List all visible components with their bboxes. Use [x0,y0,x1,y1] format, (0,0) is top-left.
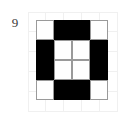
pattern-cell-filled [54,20,72,40]
puzzle-figure: 9 [0,0,140,132]
pattern-cell-empty [72,40,90,60]
pattern-cell-filled [72,20,90,40]
pattern-cell-empty [72,60,90,80]
pattern-cell-empty [90,20,108,40]
pattern-cell-empty [36,80,54,100]
pattern-grid [36,20,108,100]
pattern-cell-empty [36,20,54,40]
pattern-cell-empty [54,60,72,80]
pattern-cell-empty [54,40,72,60]
pattern-cell-filled [54,80,72,100]
pattern-cell-filled [90,60,108,80]
pattern-cell-filled [72,80,90,100]
pattern-cell-filled [90,40,108,60]
pattern-cell-empty [90,80,108,100]
pattern-cell-filled [36,40,54,60]
figure-index-label: 9 [6,14,24,32]
pattern-cell-filled [36,60,54,80]
